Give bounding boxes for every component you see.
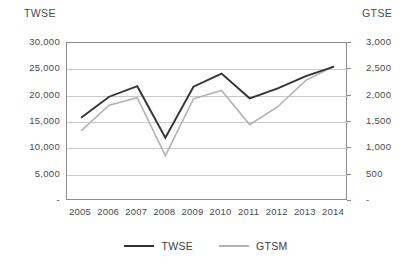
legend-line-swatch <box>219 245 249 247</box>
plot-area <box>66 42 347 200</box>
legend-label: GTSM <box>256 240 288 252</box>
right-axis-tick-label: 1,500 <box>366 115 412 126</box>
series-lines <box>67 43 348 201</box>
legend-item[interactable]: TWSE <box>124 240 193 252</box>
left-axis-tick-label: 25,000 <box>0 62 60 73</box>
left-axis-title: TWSE <box>24 7 56 19</box>
left-axis-tick-label: - <box>0 194 60 205</box>
left-axis-tick-label: 30,000 <box>0 36 60 47</box>
right-axis-tick-label: 2,500 <box>366 62 412 73</box>
right-axis-tick-label: - <box>366 194 412 205</box>
right-axis-tick-label: 3,000 <box>366 36 412 47</box>
left-axis-tick-label: 15,000 <box>0 115 60 126</box>
left-axis-tick-label: 5,000 <box>0 168 60 179</box>
line-chart: TWSE GTSE -5,00010,00015,00020,00025,000… <box>0 0 412 268</box>
legend-label: TWSE <box>161 240 193 252</box>
legend-line-swatch <box>124 245 154 247</box>
chart-legend: TWSEGTSM <box>0 240 412 252</box>
right-axis-tick-label: 500 <box>366 168 412 179</box>
left-axis-tick-label: 10,000 <box>0 141 60 152</box>
x-axis-tick-label: 2014 <box>316 206 350 217</box>
left-axis-tick-label: 20,000 <box>0 89 60 100</box>
right-axis-title: GTSE <box>362 7 392 19</box>
right-axis-tick-label: 1,000 <box>366 141 412 152</box>
legend-item[interactable]: GTSM <box>219 240 288 252</box>
right-axis-tick-label: 2,000 <box>366 89 412 100</box>
